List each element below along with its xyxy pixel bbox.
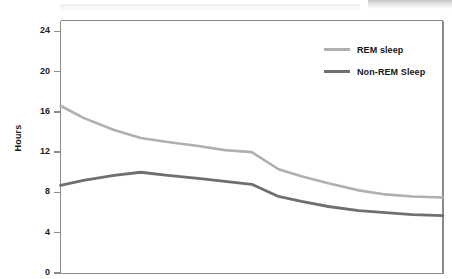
legend-label-non-rem-sleep: Non-REM Sleep: [357, 67, 425, 77]
legend-swatch-rem-sleep: [324, 48, 350, 51]
legend-item-rem-sleep: REM sleep: [324, 43, 448, 56]
chart-figure: Hours 04812162024 REM sleep Non-REM Slee…: [0, 0, 452, 279]
series-lines: [61, 106, 444, 216]
plot-area: [0, 0, 452, 279]
legend-swatch-non-rem-sleep: [324, 70, 350, 74]
legend-label-rem-sleep: REM sleep: [357, 45, 403, 55]
chart-legend: REM sleep Non-REM Sleep: [324, 43, 448, 87]
y-axis-tick-marks: [54, 31, 61, 273]
legend-item-non-rem-sleep: Non-REM Sleep: [324, 65, 448, 78]
